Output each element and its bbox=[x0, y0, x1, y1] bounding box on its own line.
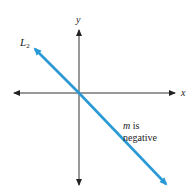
coordinate-diagram: y x L2 m is negative bbox=[0, 0, 195, 194]
slope-annotation: m is negative bbox=[123, 120, 157, 144]
slope-annotation-line1: m is bbox=[123, 120, 157, 132]
x-axis-label: x bbox=[181, 88, 185, 98]
slope-annotation-line2: negative bbox=[123, 132, 157, 144]
y-axis-label: y bbox=[76, 15, 80, 25]
line-label-subscript: 2 bbox=[26, 42, 30, 50]
line-l2-upper bbox=[35, 49, 79, 93]
diagram-canvas bbox=[0, 0, 195, 194]
slope-is-text: is bbox=[130, 120, 139, 131]
line-label: L2 bbox=[20, 37, 30, 50]
